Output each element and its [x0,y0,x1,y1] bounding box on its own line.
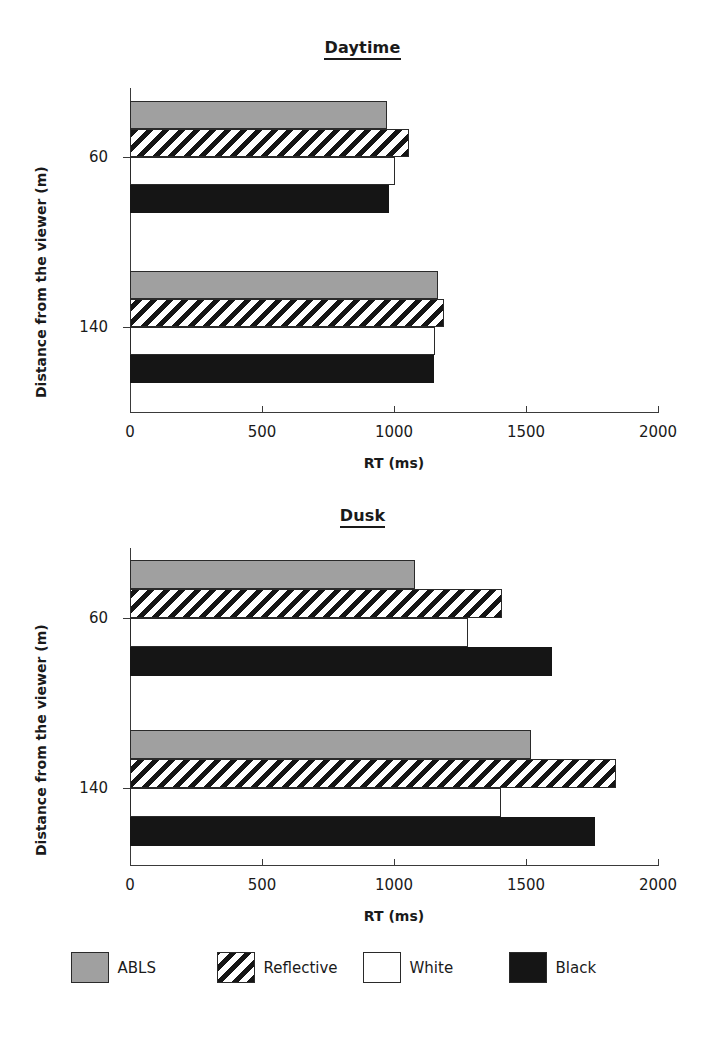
solid-white-swatch [363,952,401,983]
panel-title-dusk: Dusk [0,506,725,525]
panel-title-text: Dusk [340,506,386,528]
legend-label: Black [556,959,597,977]
x-tick-label: 1000 [375,423,413,441]
x-tick [262,406,263,413]
diagonal-hatch-swatch [217,952,255,983]
panel-title-text: Daytime [324,38,400,60]
bar-white-140m [130,788,501,817]
x-tick-label: 1000 [375,876,413,894]
y-tick [123,788,130,789]
solid-black-swatch [509,952,547,983]
y-tick-label: 140 [79,318,108,336]
plot-area-dusk: RT (ms) 050010001500200060140 [130,548,658,866]
bar-reflective-140m [130,759,616,788]
legend-label: Reflective [264,959,338,977]
x-tick-label: 500 [248,876,277,894]
y-tick [123,157,130,158]
plot-area-daytime: RT (ms) 050010001500200060140 [130,88,658,413]
x-tick-label: 2000 [639,423,677,441]
x-axis-title-dusk: RT (ms) [130,908,658,924]
x-axis-title-daytime: RT (ms) [130,455,658,471]
x-tick-label: 1500 [507,423,545,441]
chart-legend: ABLSReflectiveWhiteBlack [0,952,725,983]
legend-item-black: Black [509,952,655,983]
x-tick [526,859,527,866]
y-axis-title-daytime: Distance from the viewer (m) [33,166,49,398]
legend-item-reflective: Reflective [217,952,363,983]
x-tick [394,406,395,413]
bar-reflective-60m [130,589,502,618]
bar-reflective-140m [130,299,444,327]
y-tick [123,327,130,328]
y-tick-label: 60 [89,148,108,166]
bar-white-60m [130,618,468,647]
legend-item-abls: ABLS [71,952,217,983]
x-tick [262,859,263,866]
x-tick [130,859,131,866]
panel-dusk: Dusk Distance from the viewer (m) RT (ms… [0,478,725,918]
bar-black-140m [130,355,434,383]
bar-abls-60m [130,101,387,129]
x-tick-label: 0 [125,876,135,894]
x-tick [394,859,395,866]
bar-abls-140m [130,730,531,759]
chart-figure: Daytime Distance from the viewer (m) RT … [0,0,725,1038]
bar-black-60m [130,647,552,676]
y-tick-label: 60 [89,609,108,627]
legend-item-white: White [363,952,509,983]
x-tick-label: 1500 [507,876,545,894]
bar-reflective-60m [130,129,409,157]
bar-white-140m [130,327,435,355]
bar-black-60m [130,185,389,213]
x-tick [130,406,131,413]
panel-daytime: Daytime Distance from the viewer (m) RT … [0,0,725,478]
y-tick [123,618,130,619]
legend-label: White [410,959,454,977]
solid-gray-swatch [71,952,109,983]
x-tick [658,406,659,413]
x-tick-label: 0 [125,423,135,441]
y-tick-label: 140 [79,779,108,797]
bar-white-60m [130,157,395,185]
x-tick-label: 500 [248,423,277,441]
bar-abls-140m [130,271,438,299]
y-axis-title-dusk: Distance from the viewer (m) [33,624,49,856]
x-tick [658,859,659,866]
legend-label: ABLS [118,959,156,977]
panel-title-daytime: Daytime [0,38,725,57]
x-tick-label: 2000 [639,876,677,894]
bar-black-140m [130,817,595,846]
x-tick [526,406,527,413]
bar-abls-60m [130,560,415,589]
